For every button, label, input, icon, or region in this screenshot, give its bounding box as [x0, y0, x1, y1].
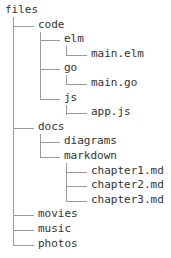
- tree-trunk-line: [66, 105, 67, 115]
- tree-branch-line: [13, 128, 34, 129]
- tree-node: chapter2.md: [91, 179, 164, 191]
- tree-node: diagrams: [64, 135, 117, 147]
- tree-trunk-line: [13, 17, 14, 246]
- tree-branch-line: [66, 201, 87, 202]
- tree-node: go: [64, 62, 77, 74]
- tree-node: markdown: [64, 150, 117, 162]
- tree-branch-line: [40, 69, 60, 70]
- tree-branch-line: [40, 157, 60, 158]
- file-tree: files codeelmmain.elmgomain.gojsapp.jsdo…: [0, 0, 171, 258]
- tree-node: elm: [64, 33, 84, 45]
- tree-node: main.elm: [91, 48, 144, 60]
- tree-node: photos: [38, 238, 78, 250]
- tree-node: chapter1.md: [91, 165, 164, 177]
- tree-node: chapter3.md: [91, 194, 164, 206]
- tree-branch-line: [13, 26, 34, 27]
- tree-branch-line: [40, 99, 60, 100]
- tree-trunk-line: [40, 134, 41, 158]
- tree-branch-line: [13, 230, 34, 231]
- tree-node: movies: [38, 208, 78, 220]
- tree-branch-line: [66, 113, 87, 114]
- tree-trunk-line: [40, 32, 41, 100]
- tree-trunk-line: [66, 163, 67, 202]
- tree-branch-line: [66, 55, 87, 56]
- tree-node: app.js: [91, 106, 131, 118]
- tree-node: main.go: [91, 77, 137, 89]
- tree-root: files: [5, 4, 38, 16]
- tree-node: code: [38, 19, 65, 31]
- tree-trunk-line: [66, 46, 67, 56]
- tree-node: docs: [38, 121, 65, 133]
- tree-branch-line: [66, 172, 87, 173]
- tree-branch-line: [13, 245, 34, 246]
- tree-branch-line: [13, 215, 34, 216]
- tree-trunk-line: [66, 75, 67, 85]
- tree-branch-line: [66, 186, 87, 187]
- tree-branch-line: [40, 142, 60, 143]
- tree-node: js: [64, 92, 77, 104]
- tree-node: music: [38, 223, 71, 235]
- tree-branch-line: [40, 40, 60, 41]
- tree-branch-line: [66, 84, 87, 85]
